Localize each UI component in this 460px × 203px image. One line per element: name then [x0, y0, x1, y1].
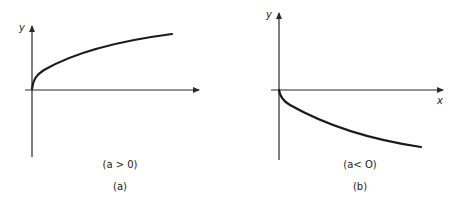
condition-b: (a< O): [343, 159, 376, 170]
x-label-b: x: [436, 95, 443, 106]
figure: y (a > 0) (a) y x (a< O) (b): [0, 0, 460, 203]
condition-a: (a > 0): [102, 159, 137, 170]
curve-b: [279, 90, 421, 147]
y-label-a: y: [18, 22, 26, 33]
caption-b: (b): [353, 181, 367, 192]
panel-b: y x (a< O) (b): [265, 9, 443, 192]
y-label-b: y: [265, 9, 273, 20]
caption-a: (a): [113, 181, 127, 192]
curve-a: [32, 34, 172, 89]
panel-a: y (a > 0) (a): [18, 22, 199, 192]
